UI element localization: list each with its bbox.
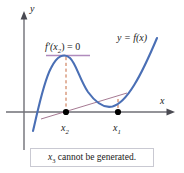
tick-x2-sub: 2 xyxy=(65,128,68,135)
derivative-suffix: ) = 0 xyxy=(61,41,80,52)
point-x2 xyxy=(63,109,69,115)
tick-x1-sub: 1 xyxy=(117,128,120,135)
caption-rest: cannot be generated. xyxy=(55,152,136,162)
y-axis-label: y xyxy=(30,4,34,14)
caption-box: x3 cannot be generated. xyxy=(30,148,154,167)
x-axis-label: x xyxy=(160,96,164,106)
tick-label-x1: x1 xyxy=(113,123,121,136)
curve-label: y = f(x) xyxy=(117,33,147,43)
tick-label-x2: x2 xyxy=(61,123,69,136)
derivative-annotation: f′(x2) = 0 xyxy=(45,42,80,55)
caption-text: x3 cannot be generated. xyxy=(48,152,136,164)
point-x1 xyxy=(115,109,121,115)
y-axis-arrowhead xyxy=(21,11,28,20)
x-axis-arrowhead xyxy=(167,109,176,116)
